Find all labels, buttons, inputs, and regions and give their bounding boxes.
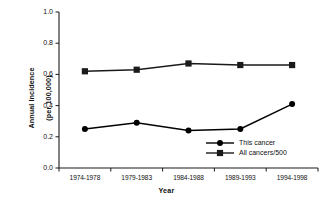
data-point-square — [185, 60, 191, 66]
legend-entry-label: This cancer — [239, 139, 275, 146]
legend-marks — [206, 140, 234, 156]
y-tick-label: 0.4 — [27, 102, 53, 110]
y-tick-label: 0.6 — [27, 70, 53, 78]
legend-entry-label: All cancers/500 — [239, 149, 287, 156]
legend-marker-circle — [217, 140, 223, 146]
data-point-square — [134, 67, 140, 73]
data-series — [82, 60, 295, 133]
y-tick-label: 1.0 — [27, 8, 53, 16]
series-line — [85, 104, 292, 131]
legend-marker-square — [217, 150, 223, 156]
data-point-circle — [186, 128, 192, 134]
y-tick-label: 0.2 — [27, 133, 53, 141]
data-point-square — [82, 68, 88, 74]
y-tick-label: 0.0 — [27, 164, 53, 172]
y-tick-label: 0.8 — [27, 39, 53, 47]
data-point-circle — [289, 101, 295, 107]
data-point-square — [289, 62, 295, 68]
data-point-circle — [82, 126, 88, 132]
data-point-square — [237, 62, 243, 68]
chart-container: Annual Incidence (per 100,000) Year 0.00… — [0, 0, 333, 208]
x-tick-label: 1994-1998 — [262, 174, 322, 182]
data-point-circle — [237, 126, 243, 132]
data-point-circle — [134, 120, 140, 126]
